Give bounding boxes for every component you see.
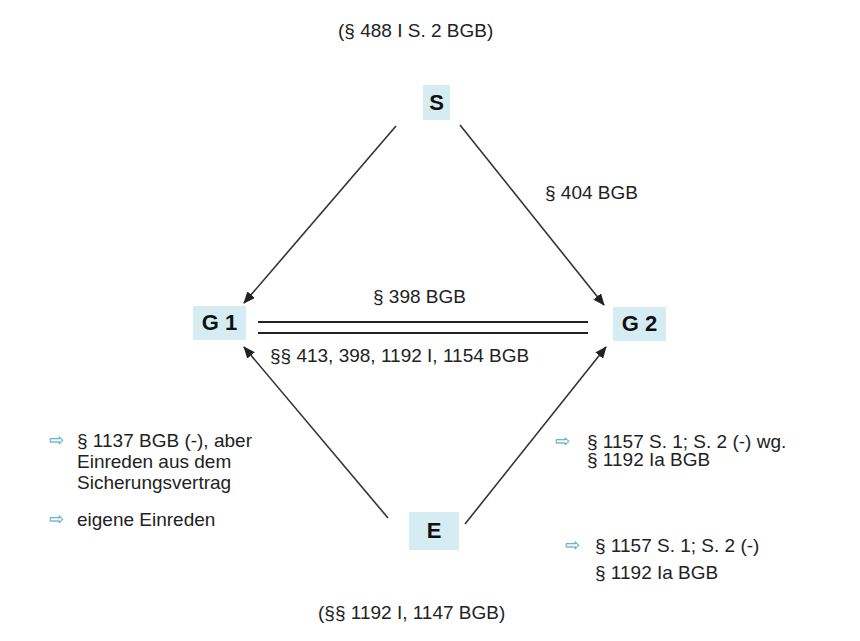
right-arrow-outline-icon: ⇨	[49, 430, 64, 451]
note-line: § 1192 Ia BGB	[595, 562, 759, 583]
arrow-s-to-g2	[460, 125, 604, 305]
note-line: eigene Einreden	[77, 509, 215, 530]
node-s: S	[423, 85, 450, 120]
note-line: § 1192 Ia BGB	[587, 449, 786, 470]
node-e-label: E	[427, 518, 442, 544]
note-line: § 1137 BGB (-), aber	[77, 430, 252, 451]
node-s-label: S	[429, 90, 444, 116]
note-left-2: ⇨ eigene Einreden	[49, 509, 215, 530]
edge-label-g1-g2-top: § 398 BGB	[373, 286, 466, 308]
note-line: Einreden aus dem	[77, 451, 252, 472]
node-g1: G 1	[193, 306, 246, 340]
top-caption: (§ 488 I S. 2 BGB)	[338, 20, 493, 42]
edge-label-g1-g2-bottom: §§ 413, 398, 1192 I, 1154 BGB	[270, 345, 529, 367]
note-left-1: ⇨ § 1137 BGB (-), aber Einreden aus dem …	[49, 430, 252, 493]
node-g1-label: G 1	[202, 310, 237, 336]
node-e: E	[409, 512, 459, 550]
note-line: § 1157 S. 1; S. 2 (-)	[595, 535, 759, 556]
right-arrow-outline-icon: ⇨	[555, 431, 570, 452]
edge-label-s-g2: § 404 BGB	[545, 182, 638, 204]
note-line: Sicherungsvertrag	[77, 472, 252, 493]
bottom-caption: (§§ 1192 I, 1147 BGB)	[318, 602, 505, 624]
arrow-s-to-g1	[244, 126, 396, 303]
note-right-2: ⇨ § 1157 S. 1; S. 2 (-) § 1192 Ia BGB	[565, 535, 759, 583]
node-g2-label: G 2	[622, 311, 657, 337]
note-right-1: ⇨ § 1157 S. 1; S. 2 (-) wg. § 1192 Ia BG…	[555, 431, 786, 470]
arrow-e-to-g1	[244, 347, 388, 518]
right-arrow-outline-icon: ⇨	[49, 509, 64, 530]
node-g2: G 2	[613, 307, 666, 341]
right-arrow-outline-icon: ⇨	[565, 535, 580, 556]
